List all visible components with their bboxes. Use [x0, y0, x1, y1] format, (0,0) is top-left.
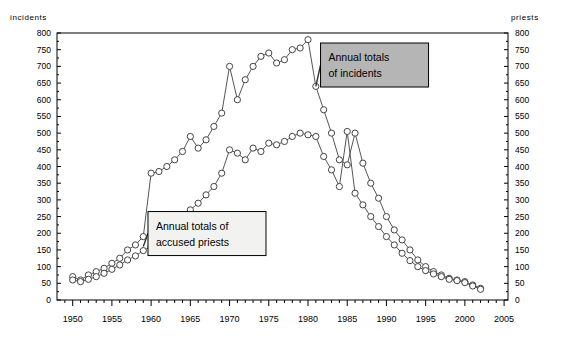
annotation-layer: Annual totalsof incidentsAnnual totals o… — [143, 43, 428, 256]
right-tick-label: 250 — [515, 212, 529, 222]
data-point-marker — [407, 258, 413, 264]
data-point-marker — [305, 37, 311, 43]
right-tick-label: 400 — [515, 162, 529, 172]
data-point-marker — [172, 157, 178, 163]
data-point-marker — [321, 153, 327, 159]
x-tick-label: 1960 — [141, 314, 161, 324]
right-tick-label: 800 — [515, 28, 529, 38]
data-point-marker — [179, 148, 185, 154]
data-point-marker — [195, 200, 201, 206]
data-point-marker — [124, 257, 130, 263]
data-point-marker — [242, 157, 248, 163]
callout-box — [148, 212, 266, 256]
callout-box — [321, 43, 429, 87]
right-tick-label: 650 — [515, 78, 529, 88]
data-point-marker — [477, 286, 483, 292]
left-tick-label: 750 — [37, 45, 51, 55]
left-tick-label: 500 — [37, 128, 51, 138]
left-tick-label: 50 — [42, 278, 52, 288]
data-point-marker — [219, 110, 225, 116]
x-tick-label: 1980 — [298, 314, 318, 324]
left-tick-label: 150 — [37, 245, 51, 255]
right-tick-label: 300 — [515, 195, 529, 205]
data-point-marker — [281, 138, 287, 144]
callout-label: accused priests — [156, 236, 229, 248]
right-tick-label: 750 — [515, 45, 529, 55]
left-tick-label: 550 — [37, 111, 51, 121]
data-point-marker — [187, 133, 193, 139]
data-point-marker — [391, 227, 397, 233]
x-tick-label: 1950 — [63, 314, 83, 324]
data-point-marker — [70, 277, 76, 283]
left-tick-label: 600 — [37, 95, 51, 105]
incidents-callout: Annual totalsof incidents — [316, 43, 429, 87]
x-tick-label: 2000 — [455, 314, 475, 324]
right-tick-label: 50 — [515, 278, 525, 288]
data-point-marker — [219, 170, 225, 176]
data-point-marker — [399, 250, 405, 256]
x-tick-label: 1985 — [337, 314, 357, 324]
left-tick-label: 650 — [37, 78, 51, 88]
left-tick-label: 400 — [37, 162, 51, 172]
data-point-marker — [148, 170, 154, 176]
data-point-marker — [203, 192, 209, 198]
data-point-marker — [132, 253, 138, 259]
right-tick-label: 500 — [515, 128, 529, 138]
data-point-marker — [289, 47, 295, 53]
left-tick-label: 800 — [37, 28, 51, 38]
data-point-marker — [391, 242, 397, 248]
x-tick-label: 1955 — [102, 314, 122, 324]
data-point-marker — [226, 147, 232, 153]
data-point-marker — [352, 190, 358, 196]
left-axis-title: incidents — [10, 13, 47, 22]
data-point-marker — [328, 130, 334, 136]
data-point-marker — [454, 278, 460, 284]
data-point-marker — [274, 60, 280, 66]
data-point-marker — [297, 130, 303, 136]
left-tick-label: 250 — [37, 212, 51, 222]
data-point-marker — [101, 270, 107, 276]
data-point-marker — [462, 280, 468, 286]
left-tick-label: 350 — [37, 178, 51, 188]
line-chart: incidents priests 0501001502002503003504… — [0, 0, 561, 342]
right-tick-label: 350 — [515, 178, 529, 188]
right-axis-title: priests — [511, 13, 539, 22]
leader-line — [316, 65, 321, 86]
right-tick-label: 200 — [515, 228, 529, 238]
data-point-marker — [430, 271, 436, 277]
data-point-marker — [140, 248, 146, 254]
data-point-marker — [234, 97, 240, 103]
data-point-marker — [258, 148, 264, 154]
data-point-marker — [117, 255, 123, 261]
x-tick-label: 1965 — [180, 314, 200, 324]
data-point-marker — [211, 123, 217, 129]
data-point-marker — [258, 53, 264, 59]
data-point-marker — [85, 276, 91, 282]
x-tick-label: 1970 — [220, 314, 240, 324]
data-point-marker — [305, 132, 311, 138]
data-point-marker — [415, 257, 421, 263]
data-point-marker — [195, 145, 201, 151]
data-point-marker — [203, 137, 209, 143]
left-tick-label: 100 — [37, 262, 51, 272]
callout-label: Annual totals — [329, 51, 390, 63]
data-point-marker — [407, 247, 413, 253]
data-point-marker — [360, 202, 366, 208]
data-point-marker — [423, 268, 429, 274]
data-point-marker — [297, 45, 303, 51]
data-point-marker — [352, 130, 358, 136]
data-point-marker — [344, 128, 350, 134]
data-point-marker — [415, 264, 421, 270]
data-point-marker — [336, 157, 342, 163]
left-tick-label: 700 — [37, 61, 51, 71]
data-point-marker — [234, 150, 240, 156]
x-tick-label: 1990 — [376, 314, 396, 324]
data-point-marker — [313, 133, 319, 139]
data-point-marker — [156, 168, 162, 174]
left-tick-label: 200 — [37, 228, 51, 238]
data-point-marker — [336, 183, 342, 189]
x-tick-label: 1995 — [416, 314, 436, 324]
data-point-marker — [274, 142, 280, 148]
x-axis-ticks: 1950195519601965197019751980198519901995… — [63, 300, 514, 324]
data-point-marker — [164, 163, 170, 169]
